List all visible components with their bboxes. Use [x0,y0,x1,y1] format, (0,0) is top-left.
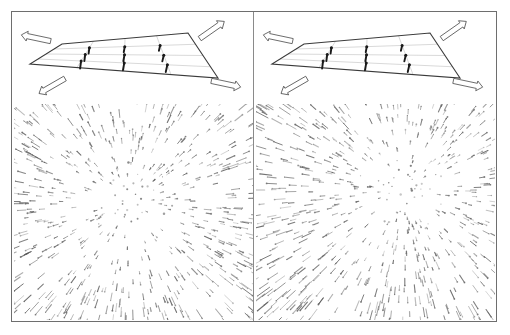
random-dot-flow-field-left [14,104,253,320]
figure-root [0,0,510,335]
dot-area-left [14,104,253,320]
figure-frame [11,11,497,322]
panel-left [12,12,255,321]
grid-area-left [12,12,255,104]
perspective-grid-diagram-left [12,12,255,104]
grid-area-right [254,12,497,104]
panel-right [253,12,496,321]
random-dot-flow-field-right [256,104,495,320]
dot-area-right [256,104,495,320]
perspective-grid-diagram-right [254,12,497,104]
